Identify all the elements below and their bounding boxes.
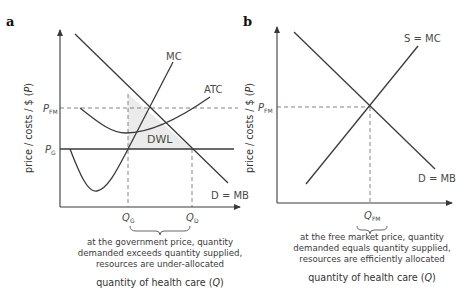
dwl-label: DWL: [147, 133, 173, 146]
figure-canvas: a MC ATC DWL D = MB PFM PG QG QD at t: [0, 0, 468, 301]
caption-b-line-2: demanded equals quantity supplied,: [293, 243, 450, 253]
atc-label: ATC: [204, 84, 223, 95]
p-fm-label-a: PFM: [43, 103, 58, 115]
brace-a: [130, 226, 190, 235]
q-fm-label: QFM: [364, 210, 381, 222]
supply-curve-b: [306, 46, 418, 184]
demand-label-b: D = MB: [418, 173, 456, 184]
caption-b-line-1: at the free market price, quantity: [300, 232, 444, 242]
demand-label-a: D = MB: [211, 190, 249, 201]
caption-a-line-2: demanded exceeds quantity supplied,: [78, 248, 242, 258]
y-axis-label-a: price / costs / $ (P): [23, 83, 34, 173]
q-d-label: QD: [186, 212, 199, 224]
caption-a-line-1: at the government price, quantity: [87, 237, 233, 247]
x-axis-label-a: quantity of health care (Q): [96, 277, 224, 288]
caption-b-line-3: resources are efficiently allocated: [299, 254, 444, 264]
p-g-label: PG: [45, 144, 56, 156]
p-fm-label-b: PFM: [258, 102, 273, 114]
panel-a-label: a: [6, 14, 15, 29]
demand-curve-b: [294, 32, 435, 169]
caption-a-line-3: resources are under-allocated: [96, 259, 224, 269]
panel-a: a MC ATC DWL D = MB PFM PG QG QD at t: [6, 14, 249, 288]
supply-label-b: S = MC: [404, 33, 441, 44]
q-g-label: QG: [122, 212, 135, 224]
x-axis-label-b: quantity of health care (Q): [308, 272, 436, 283]
panel-b: b S = MC D = MB PFM QFM at the free mark…: [243, 14, 456, 283]
panel-b-label: b: [243, 14, 252, 29]
mc-label: MC: [166, 51, 182, 62]
demand-curve-a: [75, 34, 228, 183]
y-axis-label-b: price / costs / $ (P): [244, 83, 255, 173]
